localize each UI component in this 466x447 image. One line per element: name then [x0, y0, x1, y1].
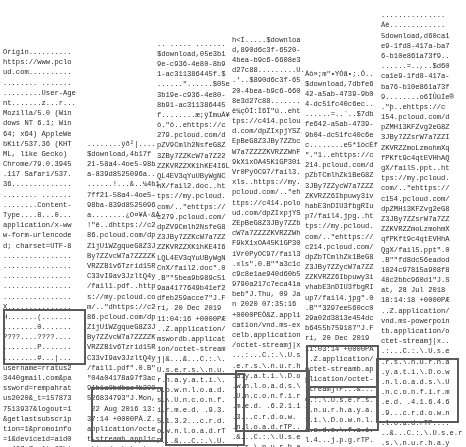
- hex-dump-line: d27c88.........U.: [232, 65, 305, 75]
- fail1-path-box: [91, 387, 163, 442]
- fail4-second-box: [306, 386, 379, 431]
- hex-dump-line: 21-58a4-4oe5-98b: [87, 159, 160, 169]
- hex-dump-line: bKit/537.36 (KHT: [3, 139, 76, 149]
- hex-dump-line: dpZbTCmlhZk1BeG8: [305, 252, 378, 262]
- hex-dump-line: ud.com..........: [3, 67, 76, 77]
- hex-dump-line: [87, 78, 160, 88]
- hex-dump-line: pcloud.com/.."eh: [232, 187, 305, 197]
- hex-dump-line: gX/fail5.ppt..ht: [381, 163, 462, 173]
- hex-dump-line: ZEpBeG8Z3JBy7ZZb: [232, 218, 305, 228]
- hex-dump-line: s://my.pcloud.co: [87, 292, 160, 302]
- hex-dump-line: us2020&_t=157873: [3, 393, 76, 403]
- hex-dump-line: 5download,d60ca1: [381, 31, 462, 41]
- hex-dump-line: 20-4bea-b9c6-660: [232, 86, 305, 96]
- hex-dump-line: [87, 98, 160, 108]
- hex-dump-line: ................: [3, 261, 76, 271]
- hex-dump-line: a-839d8525096a..: [87, 169, 160, 179]
- hex-dump-line: pZbTCmlhZk1BeG8Z: [305, 170, 378, 180]
- hex-dump-line: $download,7dbfe6: [305, 79, 378, 89]
- hex-dump-line: 3ZBy7ZZKcW7a7Z22: [157, 151, 230, 161]
- hex-dump-line: 3b19e-c936-4e80-: [157, 90, 230, 100]
- hex-dump-line: 48c2bbc960d1"J.S: [381, 275, 462, 285]
- hex-dump-line: 7ff21-58a4-4oe5-: [87, 190, 160, 200]
- hex-dump-line: 6-b10e861a73f9..: [381, 51, 462, 61]
- hex-dump-line: 3440gmail.com&pa: [3, 373, 76, 383]
- hex-dump-column-1: Origin..........https://www.pcloud.com..…: [3, 47, 76, 447]
- hex-dump-line: 42-a5ab-4739-9b0: [305, 89, 378, 99]
- hex-dump-line: p7/fail4.jpg..ht: [305, 211, 378, 221]
- hex-dump-line: ZZKVRZZXK1hKE4I6: [157, 242, 230, 252]
- hex-dump-line: Type....8...0...: [3, 210, 76, 220]
- hex-dump-line: cW7a7ZZZZKVRZZWh: [232, 228, 305, 238]
- hex-dump-line: tps://my.pcloud.: [381, 173, 462, 183]
- hex-dump-line: beb"J.Thu, 09 Ja: [232, 289, 305, 299]
- hex-dump-line: ud.com/dpZIxpjYS: [232, 208, 305, 218]
- hex-dump-line: ........Content-: [3, 200, 76, 210]
- hex-dump-line: [157, 18, 230, 28]
- hex-dump-line: .xls".0.B""a3c1c: [232, 259, 305, 269]
- hex-dump-line: habE3nDIU3fbgRIu: [305, 201, 378, 211]
- hex-dump-line: ca1e9-1fd8-417a-: [381, 71, 462, 81]
- hex-dump-line: Âô»;m"•ÝÓã•;.Ô..: [305, 69, 378, 79]
- hex-dump-line: ......=..,..$d60: [381, 61, 462, 71]
- hex-dump-line: c........e5*1öcÉf: [305, 140, 378, 150]
- hex-dump-line: ctet-streamj|x..: [381, 336, 462, 346]
- hex-dump-line: n 2020 07:35:16: [232, 299, 305, 309]
- hex-dump-line: [157, 8, 230, 18]
- hex-dump-line: 1824c97815a908f8: [381, 265, 462, 275]
- hex-dump-line: ZZKVRZZXK1hKE4I6L: [157, 161, 230, 171]
- hex-dump-line: !"ê..dhttps://c2: [87, 220, 160, 230]
- fail3-path-box: [235, 370, 310, 432]
- hex-dump-line: &getlastsubscrip: [3, 414, 76, 424]
- hex-dump-line: [87, 118, 160, 128]
- hex-dump-line: ê¼çÒÍ:Ì6Ï"ü..eht: [232, 106, 305, 116]
- hex-dump-line: Origin..........: [3, 47, 76, 57]
- hex-dump-line: e9-1fd8-417a-ba7: [381, 41, 462, 51]
- hex-dump-line: ."þ..ehttps://c: [381, 102, 462, 112]
- hex-dump-line: Vr0PyOC97/fail3.: [232, 167, 305, 177]
- hex-dump-line: Z1jU1WZgqueG8Z3J: [87, 322, 160, 332]
- hex-dump-line: b6455b759187"J.F: [305, 323, 378, 333]
- hex-dump-line: cation/vnd.ms-ex: [232, 320, 305, 330]
- hex-dump-line: f........æ;ÿÏmuÂ¥: [157, 110, 230, 120]
- hex-dump-line: l.4...j.p.g.rTP.: [305, 435, 378, 445]
- hex-dump-line: nX/fail2.doc..ht: [157, 181, 230, 191]
- hex-dump-line: ô."ô..ehttps://c: [157, 120, 230, 130]
- hex-dump-line: tps://my.pcloud.: [157, 191, 230, 201]
- hex-dump-line: xls..https://my.: [232, 177, 305, 187]
- hex-dump-line: "."1..ehttps://c: [305, 150, 378, 160]
- hex-dump-line: Z3JBy7ZZycW7a7ZZ: [305, 262, 378, 272]
- hex-dump-line: [305, 7, 378, 17]
- hex-dump-line: ................: [3, 292, 76, 302]
- hex-dump-line: EpBeG8Z3JBy7ZZbc: [232, 136, 305, 146]
- hex-dump-line: [305, 18, 378, 28]
- hex-dump-line: ttps://c414.polo: [232, 198, 305, 208]
- hex-dump-line: com/.."ehttps://: [157, 202, 230, 212]
- hex-dump-line: ........ÿð²|....: [87, 139, 160, 149]
- hex-dump-line: vhabE3nDIU3fbgRI: [305, 282, 378, 292]
- hex-dump-line: ZKVRZZ6Ibpuwy3iv: [305, 191, 378, 201]
- hex-dump-line: 36..............: [3, 179, 76, 189]
- hex-dump-line: 9790a217c7eca41a: [232, 279, 305, 289]
- hex-dump-line: 9e-c936-4e80-8b9: [157, 59, 230, 69]
- hex-dump-line: qfPKft9c4qtEVHhA: [381, 234, 462, 244]
- hex-dump-line: [87, 67, 160, 77]
- hex-dump-line: mswordb.applicat: [157, 334, 230, 344]
- hex-dump-line: QgX/fail5.ppt".0: [381, 245, 462, 255]
- hex-dump-line: 154.pcloud.com/d: [381, 112, 462, 122]
- hex-dump-line: [87, 88, 160, 98]
- hex-dump-line: vnd.ms-powerpoin: [381, 316, 462, 326]
- hex-dump-line: [305, 38, 378, 48]
- hex-dump-line: dfeb259acce7"J.F: [157, 293, 230, 303]
- hex-dump-line: 98ba-839d8525096: [87, 200, 160, 210]
- hex-dump-line: tps://c414.pclou: [232, 116, 305, 126]
- hex-dump-line: 18:14:18 +0000PÆ: [381, 295, 462, 305]
- hex-dump-line: up7/fail4.jpg".0: [305, 293, 378, 303]
- hex-dump-line: By7ZZvcW7a7ZZZZK: [87, 251, 160, 261]
- hex-dump-line: 4bea-b9c6-6608e3: [232, 55, 305, 65]
- credentials-box: [3, 309, 86, 365]
- hex-dump-line: 1-ac311386445f.$: [157, 69, 230, 79]
- hex-dump-line: .s.\.n.u.r.h.a.y: [381, 438, 462, 447]
- hex-dump-line: c279.pcloud.com/: [157, 212, 230, 222]
- hex-dump-line: "04a04178a97f3ac: [87, 373, 160, 383]
